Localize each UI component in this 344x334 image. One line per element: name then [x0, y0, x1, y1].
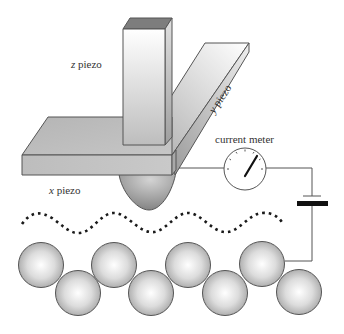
atom — [277, 270, 322, 315]
tunneling-path — [22, 213, 283, 233]
sample-atoms — [19, 242, 322, 316]
atom — [166, 243, 211, 288]
x-piezo-word: piezo — [57, 184, 81, 196]
stm-diagram: z piezo y piezo current meter x piezo — [0, 0, 344, 334]
z-axis-letter: z — [71, 58, 75, 70]
x-axis-letter: x — [49, 184, 54, 196]
z-piezo-word: piezo — [78, 58, 102, 70]
atom — [92, 243, 137, 288]
diagram-canvas — [0, 0, 344, 334]
current-meter-icon — [224, 148, 266, 190]
atom — [240, 242, 285, 287]
atom — [56, 271, 101, 316]
probe-tip — [119, 172, 176, 210]
z-piezo-label: z piezo — [71, 59, 102, 70]
atom — [129, 271, 174, 316]
x-piezo-label: x piezo — [49, 185, 80, 196]
z-piezo — [123, 18, 172, 145]
battery-icon — [297, 196, 328, 206]
atom — [203, 271, 248, 316]
atom — [19, 243, 64, 288]
current-meter-label: current meter — [215, 134, 274, 145]
